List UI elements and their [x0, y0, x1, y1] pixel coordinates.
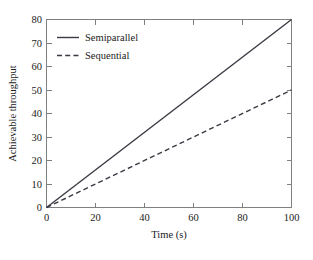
- y-tick-label: 60: [32, 61, 43, 72]
- y-tick-label: 80: [32, 14, 43, 25]
- x-tick-label: 60: [188, 212, 199, 223]
- x-tick-label: 20: [90, 212, 101, 223]
- chart-figure: 0 10 20 30 40 50 60 70 80 0 20 40 60 80 …: [0, 0, 313, 260]
- y-axis-title: Achievable throughput: [7, 65, 18, 162]
- y-tick-label: 0: [37, 202, 42, 213]
- legend-label-sequential: Sequential: [85, 50, 129, 61]
- y-tick-label: 50: [32, 85, 43, 96]
- x-tick-label: 100: [284, 212, 300, 223]
- legend-label-semiparallel: Semiparallel: [85, 32, 138, 43]
- x-axis-title: Time (s): [151, 229, 187, 241]
- y-tick-label: 70: [32, 38, 43, 49]
- y-tick-label: 40: [32, 108, 43, 119]
- x-tick-label: 80: [237, 212, 248, 223]
- x-tick-label: 0: [44, 212, 49, 223]
- y-tick-labels: 0 10 20 30 40 50 60 70 80: [32, 14, 43, 213]
- y-tick-label: 10: [32, 179, 43, 190]
- x-tick-label: 40: [139, 212, 150, 223]
- line-chart: 0 10 20 30 40 50 60 70 80 0 20 40 60 80 …: [0, 0, 313, 260]
- y-tick-label: 30: [32, 132, 43, 143]
- y-tick-label: 20: [32, 155, 43, 166]
